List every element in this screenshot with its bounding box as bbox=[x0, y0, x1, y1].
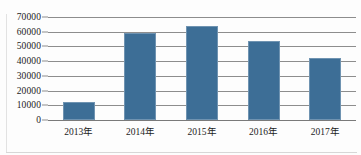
bar-2015年 bbox=[186, 26, 218, 120]
y-tick-mark-0 bbox=[42, 120, 48, 121]
y-axis-tick-label: 70000 bbox=[17, 12, 41, 22]
y-axis-tick-label: 10000 bbox=[17, 100, 41, 110]
x-axis-tick-label: 2016年 bbox=[249, 124, 278, 138]
y-axis-tick-label: 40000 bbox=[17, 56, 41, 66]
x-axis-labels: 2013年2014年2015年2016年2017年 bbox=[48, 122, 356, 140]
x-axis-tick-label: 2015年 bbox=[188, 124, 217, 138]
bar-2014年 bbox=[124, 33, 156, 120]
gridline-0 bbox=[48, 120, 356, 121]
bar-2016年 bbox=[248, 41, 280, 120]
plot-area: 010000200003000040000500006000070000 bbox=[48, 17, 356, 120]
y-axis-tick-label: 60000 bbox=[17, 27, 41, 37]
bar-2013年 bbox=[63, 102, 95, 120]
y-tick-mark-60000 bbox=[42, 31, 48, 32]
page-edge-bottom bbox=[6, 152, 357, 153]
page-edge-left bbox=[6, 14, 7, 153]
y-tick-mark-40000 bbox=[42, 61, 48, 62]
y-tick-mark-10000 bbox=[42, 105, 48, 106]
y-tick-mark-30000 bbox=[42, 75, 48, 76]
gridline-70000 bbox=[48, 17, 356, 18]
y-axis-tick-label: 20000 bbox=[17, 86, 41, 96]
y-axis-tick-label: 30000 bbox=[17, 71, 41, 81]
y-axis-tick-label: 50000 bbox=[17, 41, 41, 51]
y-axis-tick-label: 0 bbox=[36, 115, 41, 125]
y-tick-mark-50000 bbox=[42, 46, 48, 47]
x-axis-tick-label: 2017年 bbox=[311, 124, 340, 138]
x-axis-tick-label: 2013年 bbox=[64, 124, 93, 138]
x-axis-tick-label: 2014年 bbox=[126, 124, 155, 138]
y-tick-mark-70000 bbox=[42, 17, 48, 18]
bar-2017年 bbox=[309, 58, 341, 120]
bar-chart-figure: 010000200003000040000500006000070000 201… bbox=[0, 0, 361, 155]
y-tick-mark-20000 bbox=[42, 90, 48, 91]
